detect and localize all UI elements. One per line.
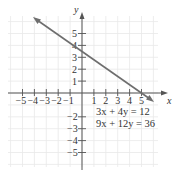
x-tick-label: −1 [63, 95, 74, 106]
x-axis-label: x [166, 95, 172, 106]
coordinate-graph: y x −5−4−3−2−112345 54321−2−3−4−5 3x + 4… [0, 0, 178, 178]
y-tick-label: 1 [72, 76, 77, 87]
y-tick-label: 2 [72, 64, 77, 75]
y-axis-label: y [73, 4, 79, 15]
graph-svg: y x −5−4−3−2−112345 54321−2−3−4−5 3x + 4… [0, 0, 178, 178]
x-tick-label: 1 [91, 95, 96, 106]
y-tick-label: 3 [72, 52, 77, 63]
x-tick-labels: −5−4−3−2−112345 [16, 95, 145, 106]
line-arrow-end-icon [146, 95, 154, 102]
y-tick-label: −4 [67, 135, 78, 146]
x-tick-label: −5 [16, 95, 27, 106]
y-tick-label: 5 [72, 28, 77, 39]
x-tick-label: 2 [103, 95, 108, 106]
y-tick-label: −2 [67, 111, 78, 122]
x-tick-label: −3 [39, 95, 50, 106]
grid [8, 16, 158, 167]
x-tick-label: −4 [27, 95, 38, 106]
x-tick-label: 4 [127, 95, 132, 106]
equation-2: 9x + 12y = 36 [96, 118, 155, 129]
y-axis-arrow-icon [80, 12, 85, 19]
x-tick-label: 5 [139, 95, 144, 106]
x-tick-label: 3 [115, 95, 120, 106]
x-tick-label: −2 [51, 95, 62, 106]
y-tick-label: −3 [67, 123, 78, 134]
equation-1: 3x + 4y = 12 [96, 106, 150, 117]
y-tick-label: −5 [67, 147, 78, 158]
